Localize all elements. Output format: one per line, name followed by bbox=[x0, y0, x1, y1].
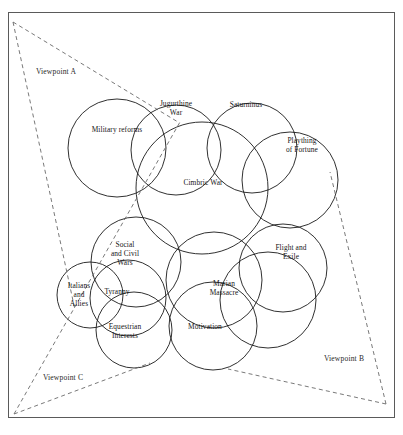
label-plaything-of-fortune: Plaything of Fortune bbox=[286, 136, 318, 154]
label-saturninus: Saturninus bbox=[230, 100, 263, 109]
label-viewpoint-c: Viewpoint C bbox=[43, 373, 83, 382]
label-layer: Military reformsJugurthine WarSaturninus… bbox=[0, 0, 403, 435]
figure-caption bbox=[0, 421, 403, 435]
label-flight-and-exile: Flight and Exile bbox=[275, 243, 306, 261]
label-motivation: Motivation bbox=[188, 322, 222, 331]
label-viewpoint-b: Viewpoint B bbox=[324, 354, 364, 363]
label-tyranny: Tyranny bbox=[104, 287, 129, 296]
label-viewpoint-a: Viewpoint A bbox=[36, 67, 76, 76]
label-social-and-civil-wars: Social and Civil Wars bbox=[111, 240, 139, 267]
label-italians-and-allies: Italians and Allies bbox=[68, 281, 91, 308]
label-jugurthine-war: Jugurthine War bbox=[160, 99, 192, 117]
label-cimbric-war: Cimbric War bbox=[183, 178, 222, 187]
label-marian-massacre: Marian Massacre bbox=[210, 279, 239, 297]
label-equestrian-interests: Equestrian Interests bbox=[109, 322, 142, 340]
label-military-reforms: Military reforms bbox=[92, 125, 143, 134]
figure-root: Military reformsJugurthine WarSaturninus… bbox=[0, 0, 403, 435]
